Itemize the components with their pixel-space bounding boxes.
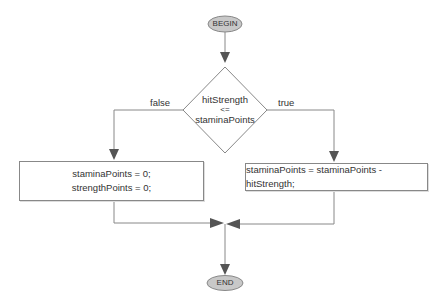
condition-line-3: staminaPoints [185,114,265,125]
end-label: END [205,278,245,287]
false-label: false [150,97,170,108]
arrow-down-icon [329,151,339,162]
statement: staminaPoints = staminaPoints - hitStren… [246,163,427,191]
true-label: true [278,97,294,108]
condition-line-1: hitStrength [185,94,265,105]
condition-line-2: <= [185,105,265,114]
true-branch-process: staminaPoints = staminaPoints - hitStren… [245,163,428,191]
arrow-down-icon [109,149,119,160]
decision-condition: hitStrength <= staminaPoints [185,94,265,125]
statement: staminaPoints = 0; [72,167,150,181]
merge-arrow-right-icon [210,218,224,228]
arrow-down-icon [220,264,230,275]
flowchart-canvas [0,0,447,308]
false-branch-process: staminaPoints = 0; strengthPoints = 0; [19,161,204,201]
arrow-down-icon [220,52,230,63]
begin-label: BEGIN [205,19,245,28]
merge-arrow-left-icon [226,219,240,229]
statement: strengthPoints = 0; [72,181,151,195]
